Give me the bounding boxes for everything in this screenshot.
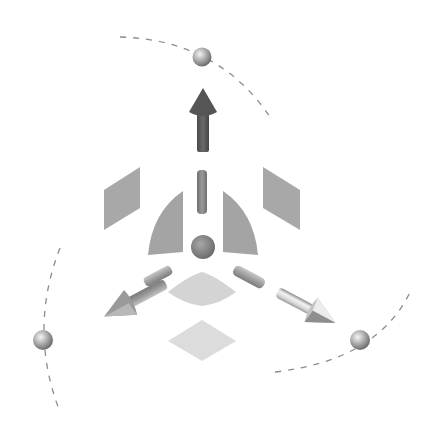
z-axis-stub[interactable] xyxy=(231,264,266,290)
bottom-rotation-sector[interactable] xyxy=(168,272,236,306)
left-rotation-sphere[interactable] xyxy=(33,330,53,350)
right-rotation-sphere[interactable] xyxy=(350,330,370,350)
y-axis-stub[interactable] xyxy=(197,170,207,214)
bottom-plane-handle[interactable] xyxy=(168,320,236,361)
left-rotation-arc[interactable] xyxy=(44,248,60,412)
center-handle-sphere[interactable] xyxy=(191,235,215,259)
right-rotation-sector[interactable] xyxy=(223,191,258,255)
gizmo-canvas xyxy=(0,0,440,439)
left-rotation-sector[interactable] xyxy=(148,191,183,255)
top-rotation-sphere[interactable] xyxy=(193,48,212,67)
y-axis-translate-arrow[interactable] xyxy=(189,88,217,152)
transform-gizmo xyxy=(0,0,440,439)
z-axis-translate-arrow[interactable] xyxy=(271,280,342,336)
left-plane-handle[interactable] xyxy=(104,167,140,230)
right-plane-handle[interactable] xyxy=(263,167,300,230)
